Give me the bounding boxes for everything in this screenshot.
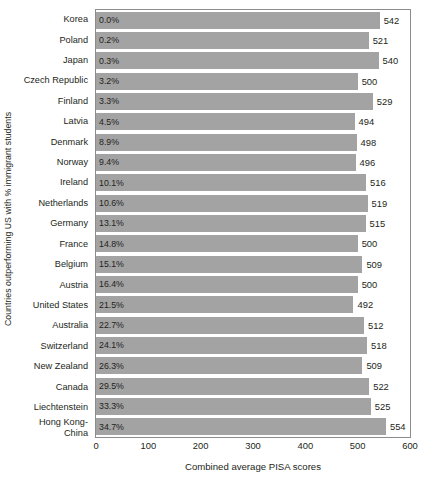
category-label: Belgium [16, 254, 92, 274]
category-label: Czech Republic [16, 70, 92, 90]
category-label: France [16, 234, 92, 254]
bar-row: 3.3%529 [96, 91, 410, 111]
category-label: Liechtenstein [16, 397, 92, 417]
bar-row: 15.1%509 [96, 254, 410, 274]
bar: 3.2% [96, 73, 358, 90]
category-label: Australia [16, 315, 92, 335]
bar-percent-label: 33.3% [96, 401, 124, 411]
bar-percent-label: 26.3% [96, 361, 124, 371]
category-label-text: Czech Republic [24, 75, 88, 85]
bar: 10.6% [96, 195, 368, 212]
bar: 8.9% [96, 134, 357, 151]
bar-value-label: 500 [362, 238, 378, 249]
category-label: Hong Kong- China [16, 417, 92, 437]
bar-percent-label: 22.7% [96, 320, 124, 330]
x-axis-tick-labels: 0100200300400500600 [95, 440, 411, 454]
category-label-text: Germany [50, 218, 88, 228]
x-axis-tick-label: 500 [350, 440, 366, 451]
bar-percent-label: 29.5% [96, 381, 124, 391]
bar-value-label: 518 [371, 340, 387, 351]
x-axis-tick-label: 400 [298, 440, 314, 451]
bar: 26.3% [96, 357, 362, 374]
category-label-text: Ireland [60, 177, 88, 187]
bar-row: 21.5%492 [96, 295, 410, 315]
bar-percent-label: 3.2% [96, 76, 119, 86]
bar-value-label: 492 [357, 299, 373, 310]
category-label-text: Australia [52, 320, 88, 330]
category-label-text: Austria [59, 280, 88, 290]
bar-row: 33.3%525 [96, 396, 410, 416]
bar-row: 26.3%509 [96, 356, 410, 376]
category-label-text: United States [33, 300, 88, 310]
category-label: Norway [16, 152, 92, 172]
bar-value-label: 554 [390, 421, 406, 432]
bar: 34.7% [96, 418, 386, 435]
category-label: Germany [16, 213, 92, 233]
category-label: Canada [16, 377, 92, 397]
bar-percent-label: 10.1% [96, 178, 124, 188]
bar: 16.4% [96, 276, 358, 293]
category-label-text: Japan [63, 55, 88, 65]
bar-value-label: 500 [362, 279, 378, 290]
bar-value-label: 500 [362, 76, 378, 87]
bar: 9.4% [96, 154, 356, 171]
bar-percent-label: 34.7% [96, 422, 124, 432]
bar: 24.1% [96, 337, 367, 354]
category-label-text: Denmark [51, 137, 88, 147]
bar-percent-label: 13.1% [96, 218, 124, 228]
category-label-text: Poland [59, 35, 88, 45]
bar-value-label: 494 [359, 116, 375, 127]
bar-value-label: 496 [360, 157, 376, 168]
bar-value-label: 540 [383, 55, 399, 66]
category-label-text: New Zealand [34, 361, 88, 371]
category-label-text: Switzerland [41, 341, 89, 351]
category-label: New Zealand [16, 356, 92, 376]
bar-value-label: 525 [375, 401, 391, 412]
x-axis-tick-label: 0 [93, 440, 98, 451]
bar-row: 9.4%496 [96, 152, 410, 172]
bar: 21.5% [96, 296, 353, 313]
bar-percent-label: 16.4% [96, 279, 124, 289]
y-axis-title: Countries outperforming US with % immigr… [0, 0, 16, 438]
bar-percent-label: 9.4% [96, 157, 119, 167]
category-label: Poland [16, 29, 92, 49]
bar: 10.1% [96, 174, 366, 191]
category-label: United States [16, 295, 92, 315]
bar: 3.3% [96, 93, 373, 110]
bar-row: 22.7%512 [96, 315, 410, 335]
bar-percent-label: 10.6% [96, 198, 124, 208]
category-label: Denmark [16, 132, 92, 152]
category-label-text: Belgium [55, 259, 88, 269]
bar-value-label: 498 [361, 137, 377, 148]
bar-row: 34.7%554 [96, 417, 410, 437]
bar: 14.8% [96, 235, 358, 252]
bar-percent-label: 15.1% [96, 259, 124, 269]
bar-value-label: 509 [366, 360, 382, 371]
bar: 0.2% [96, 32, 369, 49]
category-label-text: France [59, 239, 88, 249]
bar-row: 14.8%500 [96, 234, 410, 254]
x-axis-tick-label: 200 [193, 440, 209, 451]
bar: 33.3% [96, 398, 371, 415]
plot-area: 0.0%5420.2%5210.3%5403.2%5003.3%5294.5%4… [95, 9, 411, 438]
bar-percent-label: 0.3% [96, 56, 119, 66]
bar-value-label: 516 [370, 177, 386, 188]
bar-value-label: 515 [370, 218, 386, 229]
bar-value-label: 509 [366, 259, 382, 270]
x-axis-tick-label: 100 [141, 440, 157, 451]
category-label-text: Netherlands [38, 198, 88, 208]
bar-value-label: 522 [373, 381, 389, 392]
bar-row: 16.4%500 [96, 274, 410, 294]
bar-row: 0.2%521 [96, 30, 410, 50]
bar-percent-label: 4.5% [96, 117, 119, 127]
bar-value-label: 519 [372, 198, 388, 209]
bar-percent-label: 0.0% [96, 15, 119, 25]
bar-value-label: 512 [368, 320, 384, 331]
category-label-text: Finland [58, 96, 88, 106]
category-label-text: Hong Kong- China [39, 417, 88, 437]
bar-row: 8.9%498 [96, 132, 410, 152]
bar: 4.5% [96, 113, 355, 130]
bar-value-label: 542 [384, 15, 400, 26]
category-label: Netherlands [16, 193, 92, 213]
bar: 0.3% [96, 52, 379, 69]
